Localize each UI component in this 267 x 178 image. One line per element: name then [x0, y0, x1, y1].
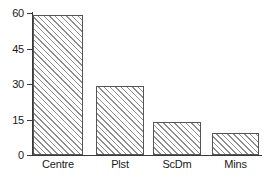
y-tick-label-30: 30 [0, 79, 24, 90]
plot-area [33, 13, 260, 155]
y-tick-label-0: 0 [0, 150, 24, 161]
y-tick-mark-60 [27, 13, 32, 14]
y-tick-label-45: 45 [0, 44, 24, 55]
y-tick-label-60: 60 [0, 8, 24, 19]
x-tick-label-scdm: ScDm [153, 158, 201, 171]
bar-scdm [153, 122, 201, 155]
x-tick-label-mins: Mins [212, 158, 259, 171]
x-tick-label-centre: Centre [33, 158, 83, 171]
y-tick-mark-15 [27, 120, 32, 121]
y-tick-mark-45 [27, 49, 32, 50]
y-tick-mark-30 [27, 84, 32, 85]
y-tick-mark-0 [27, 155, 32, 156]
x-tick-label-plst: Plst [96, 158, 144, 171]
bar-centre [33, 15, 83, 155]
bar-chart: 0 15 30 45 60 Centre Plst ScDm Mins [0, 0, 267, 178]
x-axis-line [32, 155, 262, 156]
bar-plst [96, 86, 144, 155]
y-tick-label-15: 15 [0, 115, 24, 126]
bar-mins [212, 133, 259, 155]
